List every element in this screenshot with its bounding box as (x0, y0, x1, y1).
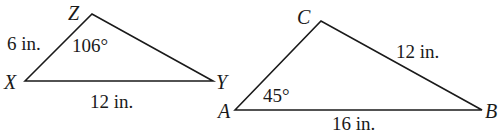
side-label-xz: 6 in. (7, 33, 41, 54)
triangles-diagram: X Y Z 6 in. 12 in. 106° A B C 12 in. 16 … (0, 0, 501, 132)
vertex-label-y: Y (216, 71, 229, 93)
vertex-label-b: B (485, 100, 497, 122)
vertex-label-z: Z (68, 2, 80, 24)
side-label-ab: 16 in. (332, 113, 375, 132)
vertex-label-a: A (216, 100, 231, 122)
triangle-abc: A B C 12 in. 16 in. 45° (216, 6, 497, 132)
vertex-label-x: X (3, 71, 17, 93)
side-label-cb: 12 in. (396, 41, 439, 62)
side-label-xy: 12 in. (90, 91, 133, 112)
angle-label-z: 106° (72, 35, 108, 56)
vertex-label-c: C (297, 6, 311, 28)
triangle-xyz: X Y Z 6 in. 12 in. 106° (3, 2, 229, 112)
angle-label-a: 45° (263, 85, 290, 106)
triangle-xyz-outline (25, 14, 213, 81)
